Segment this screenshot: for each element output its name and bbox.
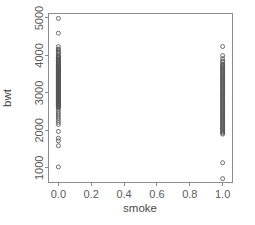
x-tick-label: 0.4 (116, 188, 131, 200)
scatter-plot-figure: 0.00.20.40.60.81.0 10002000300040005000 … (0, 0, 255, 225)
y-tick-label: 1000 (33, 156, 45, 180)
x-tick-label: 0.2 (84, 188, 99, 200)
x-tick-label: 0.6 (149, 188, 164, 200)
y-tick-label: 4000 (33, 43, 45, 67)
x-tick-label: 0.8 (182, 188, 197, 200)
y-tick-label: 3000 (33, 81, 45, 105)
y-tick-label: 5000 (33, 6, 45, 30)
x-tick-label: 1.0 (215, 188, 230, 200)
plot-canvas: 0.00.20.40.60.81.0 10002000300040005000 … (0, 0, 255, 225)
x-tick-label: 0.0 (51, 188, 66, 200)
x-axis-title: smoke (123, 202, 157, 214)
y-axis-title: bwt (1, 88, 13, 107)
y-tick-label: 2000 (33, 118, 45, 142)
